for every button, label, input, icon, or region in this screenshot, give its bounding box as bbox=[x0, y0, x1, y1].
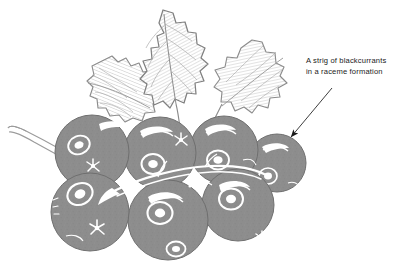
berry-upper-center bbox=[124, 117, 196, 189]
berry-lower-left bbox=[51, 173, 129, 251]
berry-lower-center bbox=[128, 180, 208, 260]
annotation-caption: A strig of blackcurrants in a raceme for… bbox=[306, 56, 412, 77]
blackcurrant-figure: A strig of blackcurrants in a raceme for… bbox=[0, 0, 412, 266]
illustration-canvas bbox=[0, 0, 412, 266]
